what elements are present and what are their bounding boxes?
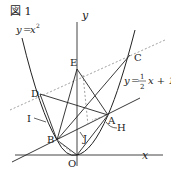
point-label-d: D (31, 88, 39, 99)
point-label-i: I (27, 113, 31, 124)
leader-i (34, 118, 46, 122)
dashed-eo (83, 75, 88, 125)
svg-text:=: = (131, 75, 139, 86)
figure-title: 図 1 (10, 5, 32, 18)
svg-text:y: y (123, 75, 130, 86)
svg-text:y: y (15, 24, 22, 35)
svg-text:x + 1: x + 1 (148, 75, 171, 86)
point-label-c: C (134, 52, 142, 63)
segment-da (40, 94, 108, 115)
point-label-b: B (47, 134, 54, 145)
svg-text:2: 2 (140, 83, 144, 91)
y-axis-label: y (81, 9, 89, 22)
point-label-e: E (70, 57, 77, 68)
svg-text:1: 1 (140, 73, 144, 81)
point-label-h: H (117, 122, 126, 133)
math-figure: 図 1 y = x 2 y = 1 2 x + 1 y x O E C D A … (0, 0, 171, 170)
origin-label: O (68, 158, 76, 169)
segment-ea (77, 69, 108, 115)
line-label: y = 1 2 x + 1 (123, 73, 171, 91)
svg-text:2: 2 (36, 22, 40, 29)
point-label-j: J (82, 133, 87, 144)
x-axis-label: x (142, 149, 149, 162)
point-label-a: A (107, 115, 116, 126)
parabola-label: y = x 2 (15, 22, 40, 35)
